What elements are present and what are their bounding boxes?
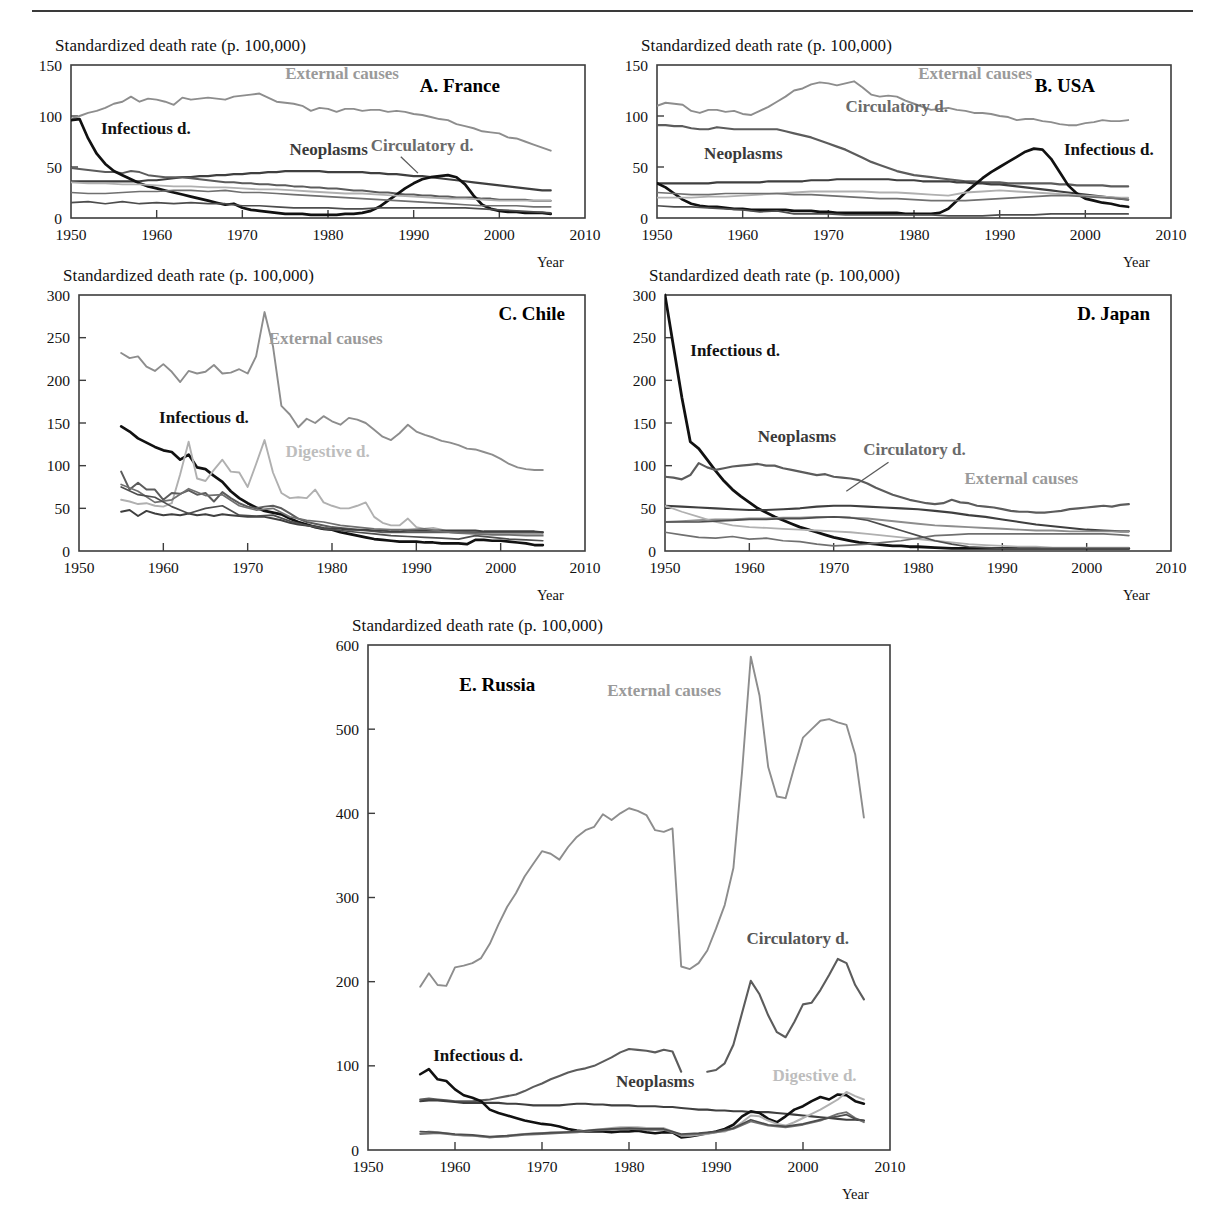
y-tick-label: 0 (54, 210, 62, 227)
x-tick-label: 1990 (398, 226, 429, 243)
y-tick-label: 100 (47, 457, 71, 474)
x-tick-label: 1990 (701, 1158, 732, 1175)
series-label: Circulatory d. (845, 97, 948, 116)
y-tick-label: 300 (336, 889, 360, 906)
series-label: Circulatory d. (371, 136, 474, 155)
x-tick-label: 1960 (141, 226, 172, 243)
x-tick-label: 1960 (734, 559, 765, 576)
y-axis-title: Standardized death rate (p. 100,000) (641, 36, 892, 56)
x-tick-label: 1990 (984, 226, 1015, 243)
plot-panel-a: 0501001501950196019701980199020002010A. … (15, 35, 631, 280)
x-tick-label: 2000 (1070, 226, 1101, 243)
panel-title: D. Japan (1077, 303, 1150, 324)
y-tick-label: 100 (633, 457, 657, 474)
x-tick-label: 1980 (899, 226, 930, 243)
series-label: Infectious d. (1064, 140, 1154, 159)
series-line (665, 532, 1129, 546)
panel-title: A. France (420, 75, 500, 96)
y-tick-label: 150 (625, 57, 649, 74)
x-tick-label: 1960 (440, 1158, 471, 1175)
y-tick-label: 50 (633, 159, 649, 176)
series-label: External causes (607, 681, 721, 700)
plot-panel-c: 0501001502002503001950196019701980199020… (23, 265, 631, 613)
y-axis-title: Standardized death rate (p. 100,000) (55, 36, 306, 56)
x-tick-label: 2010 (570, 226, 601, 243)
series-label: External causes (964, 469, 1078, 488)
series-label: Digestive d. (773, 1066, 857, 1085)
x-tick-label: 1980 (317, 559, 348, 576)
y-tick-label: 200 (336, 973, 360, 990)
y-tick-label: 250 (47, 329, 71, 346)
panel-title: E. Russia (459, 674, 536, 695)
chart-panel-c: Standardized death rate (p. 100,000)Year… (23, 265, 631, 613)
series-label: External causes (285, 64, 399, 83)
series-label: Infectious d. (433, 1046, 523, 1065)
y-tick-label: 100 (39, 108, 63, 125)
y-tick-label: 600 (336, 637, 360, 654)
y-tick-label: 100 (625, 108, 649, 125)
series-label: Circulatory d. (746, 929, 849, 948)
x-tick-label: 1980 (614, 1158, 645, 1175)
series-label: External causes (918, 64, 1032, 83)
x-tick-label: 1970 (227, 226, 258, 243)
y-tick-label: 200 (47, 372, 71, 389)
x-tick-label: 2010 (1156, 226, 1187, 243)
x-tick-label: 1950 (64, 559, 95, 576)
x-tick-label: 2010 (1156, 559, 1187, 576)
y-tick-label: 50 (55, 500, 71, 517)
y-tick-label: 400 (336, 805, 360, 822)
x-tick-label: 1990 (401, 559, 432, 576)
plot-panel-d: 0501001502002503001950196019701980199020… (609, 265, 1217, 613)
x-tick-label: 1970 (818, 559, 849, 576)
x-tick-label: 2000 (788, 1158, 819, 1175)
y-tick-label: 250 (633, 329, 657, 346)
header-rule (32, 10, 1193, 12)
series-line (420, 1100, 864, 1120)
y-tick-label: 150 (39, 57, 63, 74)
panel-title: C. Chile (499, 303, 566, 324)
x-tick-label: 2010 (570, 559, 601, 576)
y-tick-label: 0 (62, 543, 70, 560)
series-label: Circulatory d. (863, 440, 966, 459)
chart-panel-e: Standardized death rate (p. 100,000)Year… (312, 615, 936, 1212)
y-tick-label: 200 (633, 372, 657, 389)
series-label: Infectious d. (101, 119, 191, 138)
series-label: Neoplasms (704, 144, 783, 163)
y-tick-label: 0 (640, 210, 648, 227)
x-tick-label: 1970 (813, 226, 844, 243)
series-label: Digestive d. (286, 442, 370, 461)
chart-panel-d: Standardized death rate (p. 100,000)Year… (609, 265, 1217, 613)
y-tick-label: 150 (633, 415, 657, 432)
y-tick-label: 300 (633, 287, 657, 304)
y-tick-label: 0 (351, 1142, 359, 1159)
y-axis-title: Standardized death rate (p. 100,000) (649, 266, 900, 286)
x-tick-label: 1950 (56, 226, 87, 243)
y-tick-label: 300 (47, 287, 71, 304)
chart-panel-b: Standardized death rate (p. 100,000)Year… (601, 35, 1217, 280)
y-tick-label: 50 (641, 500, 657, 517)
y-tick-label: 500 (336, 721, 360, 738)
series-label: Neoplasms (289, 140, 368, 159)
x-tick-label: 2000 (484, 226, 515, 243)
y-tick-label: 50 (47, 159, 63, 176)
x-tick-label: 1980 (903, 559, 934, 576)
series-label: External causes (269, 329, 383, 348)
x-tick-label: 1950 (642, 226, 673, 243)
x-tick-label: 1970 (527, 1158, 558, 1175)
plot-panel-e: 0100200300400500600195019601970198019902… (312, 615, 936, 1212)
series-label: Infectious d. (690, 341, 780, 360)
panel-title: B. USA (1035, 75, 1095, 96)
x-axis-title: Year (842, 1186, 869, 1203)
y-axis-title: Standardized death rate (p. 100,000) (352, 616, 603, 636)
plot-panel-b: 0501001501950196019701980199020002010B. … (601, 35, 1217, 280)
chart-panel-a: Standardized death rate (p. 100,000)Year… (15, 35, 631, 280)
series-label: Infectious d. (159, 408, 249, 427)
x-axis-title: Year (537, 587, 564, 604)
x-tick-label: 1970 (232, 559, 263, 576)
x-tick-label: 2000 (1071, 559, 1102, 576)
x-tick-label: 1950 (650, 559, 681, 576)
x-tick-label: 1950 (353, 1158, 384, 1175)
series-line (71, 202, 551, 213)
y-tick-label: 0 (648, 543, 656, 560)
y-axis-title: Standardized death rate (p. 100,000) (63, 266, 314, 286)
